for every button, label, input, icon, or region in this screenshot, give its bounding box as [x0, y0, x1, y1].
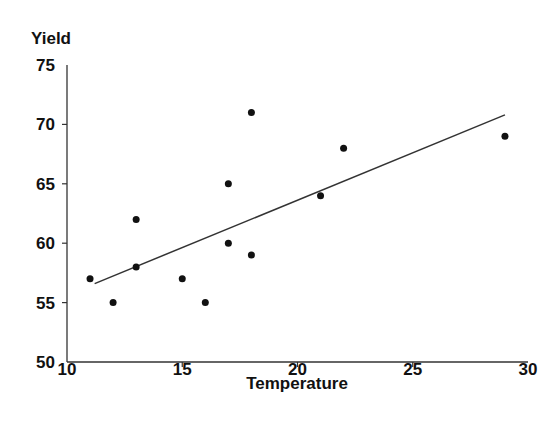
- data-point: [133, 263, 140, 270]
- y-tick-label: 70: [36, 115, 55, 134]
- scatter-chart: Yield 505560657075 1015202530 Temperatur…: [0, 0, 559, 443]
- data-point: [225, 240, 232, 247]
- data-point: [248, 252, 255, 259]
- regression-line: [95, 115, 505, 284]
- data-point: [110, 299, 117, 306]
- y-tick-label: 50: [36, 353, 55, 372]
- data-point: [340, 145, 347, 152]
- x-tick-label: 10: [58, 360, 77, 379]
- y-tick-label: 60: [36, 234, 55, 253]
- data-point: [202, 299, 209, 306]
- x-axis-title: Temperature: [246, 374, 348, 393]
- data-point: [179, 275, 186, 282]
- x-tick-label: 25: [403, 360, 422, 379]
- data-point: [501, 133, 508, 140]
- y-axis-title: Yield: [31, 29, 71, 48]
- y-tick-label: 65: [36, 175, 55, 194]
- y-axis: 505560657075: [36, 56, 67, 372]
- data-point: [248, 109, 255, 116]
- data-point: [87, 275, 94, 282]
- x-tick-label: 30: [519, 360, 538, 379]
- data-points: [87, 109, 509, 306]
- data-point: [225, 180, 232, 187]
- data-point: [317, 192, 324, 199]
- data-point: [133, 216, 140, 223]
- y-tick-label: 75: [36, 56, 55, 75]
- x-tick-label: 15: [173, 360, 192, 379]
- y-tick-label: 55: [36, 294, 55, 313]
